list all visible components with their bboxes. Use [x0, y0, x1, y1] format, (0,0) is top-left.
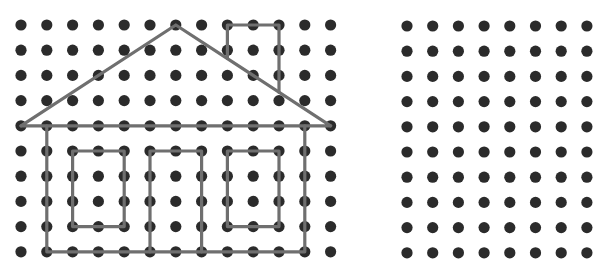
grid-dot	[144, 95, 155, 106]
grid-dot	[325, 70, 336, 81]
grid-dot	[479, 197, 490, 208]
grid-dot	[15, 221, 26, 232]
grid-dot	[427, 197, 438, 208]
grid-dot	[401, 46, 412, 57]
grid-dot	[325, 145, 336, 156]
grid-dot	[15, 171, 26, 182]
grid-dot	[581, 71, 592, 82]
grid-dot	[67, 95, 78, 106]
grid-dot	[479, 46, 490, 57]
grid-dot	[453, 197, 464, 208]
grid-dot	[401, 146, 412, 157]
grid-dot	[556, 46, 567, 57]
grid-dot	[119, 70, 130, 81]
house-body-shape	[47, 126, 305, 252]
grid-dot	[401, 96, 412, 107]
grid-dot	[248, 171, 259, 182]
grid-dot	[556, 121, 567, 132]
grid-dot	[144, 19, 155, 30]
grid-dot	[41, 95, 52, 106]
grid-dot	[479, 96, 490, 107]
grid-dot	[93, 171, 104, 182]
grid-dot	[427, 172, 438, 183]
grid-dot	[248, 196, 259, 207]
grid-dot	[67, 45, 78, 56]
grid-dot	[504, 222, 515, 233]
grid-dot	[15, 70, 26, 81]
grid-dot	[196, 45, 207, 56]
house-drawing	[21, 25, 331, 252]
left-window-shape	[73, 151, 125, 227]
grid-dot	[41, 45, 52, 56]
grid-dot	[453, 222, 464, 233]
grid-dot	[581, 146, 592, 157]
grid-dot	[119, 95, 130, 106]
grid-dot	[401, 20, 412, 31]
grid-dot	[530, 96, 541, 107]
grid-dot	[196, 95, 207, 106]
grid-dot	[401, 121, 412, 132]
grid-dot	[144, 45, 155, 56]
grid-dot	[556, 96, 567, 107]
grid-dot	[325, 196, 336, 207]
grid-dot	[299, 19, 310, 30]
grid-dot	[170, 221, 181, 232]
grid-dot	[504, 46, 515, 57]
grid-dot	[504, 146, 515, 157]
grid-dot	[581, 172, 592, 183]
grid-dot	[453, 146, 464, 157]
right-window-shape	[227, 151, 279, 227]
grid-dot	[401, 222, 412, 233]
grid-dot	[222, 70, 233, 81]
grid-dot	[325, 221, 336, 232]
grid-dot	[401, 247, 412, 258]
grid-dot	[222, 95, 233, 106]
grid-dot	[556, 20, 567, 31]
grid-dot	[427, 146, 438, 157]
grid-dot	[504, 247, 515, 258]
grid-dot	[401, 197, 412, 208]
grid-dot	[479, 172, 490, 183]
grid-dot	[530, 121, 541, 132]
grid-dot	[427, 247, 438, 258]
grid-dot	[67, 70, 78, 81]
grid-dot	[453, 247, 464, 258]
grid-dot	[479, 20, 490, 31]
grid-dot	[170, 95, 181, 106]
grid-dot	[453, 172, 464, 183]
grid-dot	[15, 95, 26, 106]
grid-dot	[15, 145, 26, 156]
grid-dot	[119, 45, 130, 56]
grid-dot	[479, 247, 490, 258]
grid-dot	[325, 19, 336, 30]
grid-dot	[581, 20, 592, 31]
grid-dot	[325, 246, 336, 257]
grid-dot	[273, 95, 284, 106]
grid-dot	[15, 246, 26, 257]
grid-dot	[427, 46, 438, 57]
grid-dot	[530, 71, 541, 82]
grid-dot	[325, 171, 336, 182]
grid-dot	[581, 247, 592, 258]
grid-dot	[556, 146, 567, 157]
grid-dot	[479, 71, 490, 82]
grid-dot	[453, 20, 464, 31]
grid-dot	[15, 45, 26, 56]
grid-dot	[299, 70, 310, 81]
grid-dot	[556, 197, 567, 208]
grid-dot	[67, 19, 78, 30]
grid-dot	[93, 45, 104, 56]
grid-dot	[581, 96, 592, 107]
grid-dot	[170, 196, 181, 207]
grid-dot	[581, 46, 592, 57]
grid-dot	[401, 71, 412, 82]
grid-dot	[196, 70, 207, 81]
grid-dot	[556, 222, 567, 233]
grid-dot	[504, 197, 515, 208]
grid-dot	[41, 19, 52, 30]
grid-dot	[453, 121, 464, 132]
grid-dot	[504, 121, 515, 132]
grid-dot	[427, 71, 438, 82]
grid-dot	[453, 96, 464, 107]
grid-dot	[530, 146, 541, 157]
